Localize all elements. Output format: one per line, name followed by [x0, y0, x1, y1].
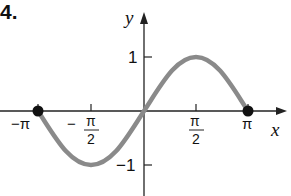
label-pi-half-denominator: 2 — [192, 131, 200, 147]
sine-graph: 4. −π − π 2 π 2 π 1 −1 x y — [0, 0, 291, 196]
label-pi-half-numerator: π — [190, 113, 200, 129]
endpoint-left — [33, 106, 44, 117]
label-neg-pi: −π — [11, 115, 30, 132]
label-neg-pi-half-denominator: 2 — [87, 131, 95, 147]
x-axis-label: x — [270, 119, 280, 140]
x-axis-arrow-icon — [276, 107, 287, 115]
label-pi: π — [242, 115, 252, 132]
problem-number: 4. — [0, 0, 18, 23]
y-axis-arrow-icon — [140, 12, 148, 24]
label-y-1: 1 — [128, 48, 137, 67]
y-axis-label: y — [123, 7, 134, 28]
label-neg-pi-half-numerator: π — [86, 113, 96, 129]
label-y-neg-1: −1 — [116, 156, 135, 175]
label-neg-pi-half-sign: − — [67, 115, 76, 132]
